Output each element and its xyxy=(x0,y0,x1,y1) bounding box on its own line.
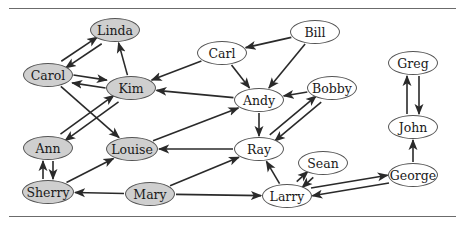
node-andy[interactable]: Andy xyxy=(234,88,284,112)
node-sean[interactable]: Sean xyxy=(298,151,348,175)
node-carol[interactable]: Carol xyxy=(23,63,73,87)
edge-kim-to-ann xyxy=(65,102,118,141)
edge-mary-to-sherry xyxy=(75,193,124,194)
node-label: Kim xyxy=(118,81,143,96)
node-carl[interactable]: Carl xyxy=(197,41,247,65)
edge-mary-to-ray xyxy=(170,157,239,185)
node-label: Sherry xyxy=(26,185,69,200)
edge-ann-to-kim xyxy=(60,95,113,134)
node-label: Bill xyxy=(304,25,325,40)
node-label: John xyxy=(399,120,428,135)
bottom-rule xyxy=(9,216,456,217)
node-label: Carol xyxy=(31,68,66,83)
edge-carol-to-kim xyxy=(73,75,106,80)
node-ann[interactable]: Ann xyxy=(23,136,73,160)
node-mary[interactable]: Mary xyxy=(125,182,175,206)
node-larry[interactable]: Larry xyxy=(262,184,312,208)
node-george[interactable]: George xyxy=(388,163,438,187)
edge-larry-to-sean xyxy=(297,171,308,181)
node-label: Larry xyxy=(270,189,305,204)
node-sherry[interactable]: Sherry xyxy=(22,180,74,204)
edge-larry-to-ray xyxy=(266,161,279,183)
node-john[interactable]: John xyxy=(388,115,438,139)
node-bobby[interactable]: Bobby xyxy=(307,76,357,100)
edge-carl-to-andy xyxy=(232,65,250,88)
node-label: George xyxy=(390,168,436,183)
node-linda[interactable]: Linda xyxy=(90,18,140,42)
node-bill[interactable]: Bill xyxy=(290,20,340,44)
edge-mary-to-larry xyxy=(176,194,261,195)
edge-larry-to-george xyxy=(311,175,388,188)
edge-linda-to-carol xyxy=(66,44,102,68)
node-label: Louise xyxy=(111,142,153,157)
edge-bobby-to-ray xyxy=(275,102,321,141)
edge-kim-to-carol xyxy=(72,83,105,88)
edge-andy-to-kim xyxy=(157,90,234,97)
edge-louise-to-andy xyxy=(153,108,238,141)
graph-figure: LindaCarolKimAnnLouiseSherryMaryCarlBill… xyxy=(0,0,464,228)
edge-sherry-to-louise xyxy=(66,158,113,182)
node-greg[interactable]: Greg xyxy=(388,51,438,75)
edge-carl-to-kim xyxy=(152,61,202,80)
node-label: Greg xyxy=(397,56,428,71)
node-label: Mary xyxy=(133,187,166,202)
node-label: Andy xyxy=(243,93,275,108)
node-label: Bobby xyxy=(312,81,352,96)
edge-bill-to-carl xyxy=(246,37,292,47)
edge-sean-to-larry xyxy=(302,177,313,187)
node-label: Linda xyxy=(97,23,133,38)
edge-carol-to-linda xyxy=(61,37,97,61)
node-label: Ray xyxy=(247,142,271,157)
node-label: Sean xyxy=(307,156,338,171)
node-label: Carl xyxy=(209,46,236,61)
node-kim[interactable]: Kim xyxy=(106,76,156,100)
edge-george-to-larry xyxy=(312,183,389,196)
node-louise[interactable]: Louise xyxy=(106,137,158,161)
node-label: Ann xyxy=(35,141,60,156)
edge-kim-to-linda xyxy=(119,43,128,75)
edge-bill-to-andy xyxy=(269,44,305,88)
node-ray[interactable]: Ray xyxy=(234,137,284,161)
edge-bobby-to-andy xyxy=(284,92,308,96)
